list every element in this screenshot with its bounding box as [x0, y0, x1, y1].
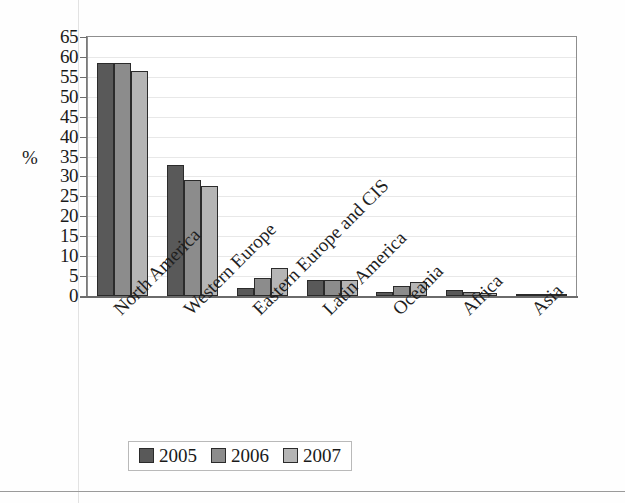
legend-label: 2007	[303, 446, 341, 465]
y-axis-tick-mark	[80, 236, 87, 237]
x-axis-line	[80, 296, 578, 298]
bar	[184, 180, 201, 296]
y-axis-tick-mark	[80, 117, 87, 118]
bar	[237, 288, 254, 296]
y-axis-tick-value: 15	[36, 226, 78, 245]
y-axis-tick-mark	[80, 77, 87, 78]
y-axis-tick-value: 30	[36, 166, 78, 185]
bar	[97, 63, 114, 296]
bar-group	[516, 37, 567, 296]
legend-item: 2007	[283, 446, 341, 465]
y-axis-tick-value: 60	[36, 47, 78, 66]
y-axis-tick-value: 5	[36, 266, 78, 285]
y-axis-tick-value: 45	[36, 107, 78, 126]
y-axis-tick-label: 25	[0, 186, 78, 205]
y-axis-tick-mark	[80, 216, 87, 217]
bar	[393, 286, 410, 296]
y-axis-tick-mark	[80, 196, 87, 197]
y-axis-tick-label: 40	[0, 127, 78, 146]
y-axis-tick-value: 50	[36, 87, 78, 106]
y-axis-tick-label: 10	[0, 246, 78, 265]
bar-chart-figure: 65605550454035302520151050 % North Ameri…	[0, 0, 625, 503]
y-axis-tick-mark	[80, 57, 87, 58]
y-axis-tick-value: 65	[36, 27, 78, 46]
y-axis-tick-label: 35	[0, 147, 78, 166]
y-axis-tick-mark	[80, 256, 87, 257]
legend-label: 2005	[159, 446, 197, 465]
y-axis-tick-mark	[80, 176, 87, 177]
bar	[131, 71, 148, 296]
y-axis-tick-mark	[80, 97, 87, 98]
y-axis-tick-label: 15	[0, 226, 78, 245]
y-axis-title: %	[22, 148, 38, 167]
y-axis-tick-mark	[80, 296, 87, 297]
y-axis-tick-label: 55	[0, 67, 78, 86]
y-axis-tick-mark	[80, 137, 87, 138]
bar	[341, 280, 358, 296]
chart-legend: 200520062007	[128, 441, 352, 471]
legend-swatch	[211, 448, 226, 463]
y-axis-tick-mark	[80, 276, 87, 277]
y-axis-tick-value: 0	[36, 286, 78, 305]
bar	[271, 268, 288, 296]
bar	[201, 186, 218, 296]
legend-item: 2006	[211, 446, 269, 465]
legend-swatch	[139, 448, 154, 463]
y-axis-tick-label: 45	[0, 107, 78, 126]
y-axis-tick-value: 25	[36, 186, 78, 205]
y-axis-tick-value: 10	[36, 246, 78, 265]
bar	[446, 290, 463, 296]
bar	[324, 280, 341, 296]
bar-group	[307, 37, 358, 296]
bar	[254, 278, 271, 296]
bar	[114, 63, 131, 296]
bar	[410, 282, 427, 296]
y-axis-tick-mark	[80, 37, 87, 38]
bar-group	[376, 37, 427, 296]
legend-swatch	[283, 448, 298, 463]
y-axis-tick-label: 60	[0, 47, 78, 66]
bar-group	[237, 37, 288, 296]
y-axis-tick-label: 65	[0, 27, 78, 46]
bar-group	[97, 37, 148, 296]
legend-label: 2006	[231, 446, 269, 465]
y-axis-tick-label: 0	[0, 286, 78, 305]
bar	[516, 294, 533, 297]
bar	[167, 165, 184, 296]
y-axis-tick-label: 30	[0, 166, 78, 185]
bar	[307, 280, 324, 296]
bar-group	[446, 37, 497, 296]
y-axis-tick-value: 55	[36, 67, 78, 86]
y-axis-tick-label: 20	[0, 206, 78, 225]
y-axis-line	[86, 36, 87, 297]
bar	[480, 293, 497, 296]
bar	[376, 292, 393, 296]
y-axis-tick-value: 40	[36, 127, 78, 146]
legend-item: 2005	[139, 446, 197, 465]
y-axis-tick-label: 50	[0, 87, 78, 106]
bar-series-layer	[88, 37, 576, 296]
bar	[533, 294, 550, 297]
bar	[550, 294, 567, 297]
y-axis-tick-value: 20	[36, 206, 78, 225]
y-axis-tick-value: 35	[36, 147, 78, 166]
bar-group	[167, 37, 218, 296]
y-axis-tick-label: 5	[0, 266, 78, 285]
y-axis-tick-mark	[80, 157, 87, 158]
bar	[463, 292, 480, 296]
